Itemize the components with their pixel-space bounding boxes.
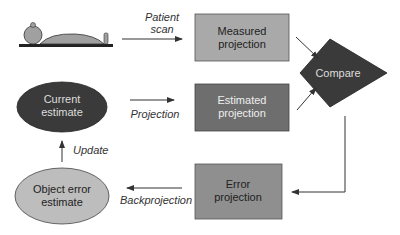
edge-label: Backprojection bbox=[120, 194, 192, 206]
measured-projection-box: Measured projection bbox=[195, 14, 289, 61]
svg-text:Current: Current bbox=[44, 93, 81, 105]
edge-label: Update bbox=[73, 144, 108, 156]
svg-text:estimate: estimate bbox=[41, 106, 83, 118]
svg-text:Backprojection: Backprojection bbox=[120, 194, 192, 206]
svg-text:projection: projection bbox=[218, 107, 266, 119]
compare-to-error-arrow bbox=[292, 116, 345, 192]
edge-label: Patient bbox=[145, 11, 180, 23]
edge-label: Projection bbox=[131, 108, 180, 120]
svg-text:Update: Update bbox=[73, 144, 108, 156]
measured-to-compare-arrow bbox=[296, 37, 318, 58]
svg-text:Error: Error bbox=[226, 178, 251, 190]
compare-diamond: Compare bbox=[300, 39, 387, 107]
current-estimate-ellipse: Current estimate bbox=[17, 82, 107, 132]
svg-text:Compare: Compare bbox=[315, 67, 360, 79]
edge-label: scan bbox=[150, 23, 173, 35]
svg-text:estimate: estimate bbox=[41, 196, 83, 208]
object-error-estimate-ellipse: Object error estimate bbox=[15, 168, 109, 224]
svg-text:Projection: Projection bbox=[131, 108, 180, 120]
svg-text:scan: scan bbox=[150, 23, 173, 35]
estimated-projection-box: Estimated projection bbox=[195, 84, 289, 131]
svg-text:Object error: Object error bbox=[33, 183, 91, 195]
svg-text:Measured: Measured bbox=[218, 25, 267, 37]
estimated-to-compare-arrow bbox=[297, 88, 316, 110]
svg-text:Patient: Patient bbox=[145, 11, 180, 23]
flowchart: Patient scan Measured projection Estimat… bbox=[0, 0, 400, 235]
svg-text:Estimated: Estimated bbox=[218, 94, 267, 106]
svg-text:projection: projection bbox=[214, 191, 262, 203]
error-projection-box: Error projection bbox=[195, 164, 282, 219]
patient-lying-on-table-icon bbox=[19, 23, 113, 48]
svg-text:projection: projection bbox=[218, 38, 266, 50]
